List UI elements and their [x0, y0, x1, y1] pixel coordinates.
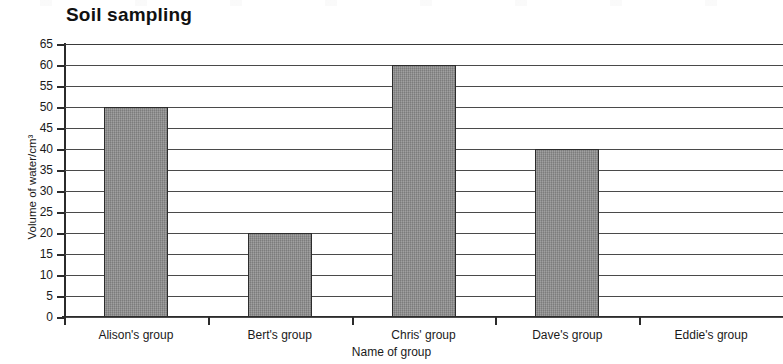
bar-chart: Soil sampling Volume of water/cm³ 051015…	[0, 0, 783, 364]
y-tick-mark	[57, 170, 65, 172]
y-tick-label: 50	[40, 100, 53, 114]
y-tick-label: 55	[40, 79, 53, 93]
y-tick-label: 15	[40, 247, 53, 261]
y-tick-label: 35	[40, 163, 53, 177]
y-tick-mark	[57, 275, 65, 277]
y-tick-label: 45	[40, 121, 53, 135]
y-tick-mark	[57, 44, 65, 46]
y-tick-mark	[57, 254, 65, 256]
x-tick-mark	[64, 316, 66, 325]
y-tick-label: 25	[40, 205, 53, 219]
y-tick-label: 20	[40, 226, 53, 240]
y-tick-mark	[57, 233, 65, 235]
y-tick-mark	[57, 107, 65, 109]
x-tick-label: Alison's group	[98, 328, 173, 342]
x-tick-label: Eddie's group	[675, 328, 748, 342]
y-tick-mark	[57, 212, 65, 214]
y-tick-label: 30	[40, 184, 53, 198]
y-tick-mark	[57, 191, 65, 193]
x-tick-mark	[495, 316, 497, 325]
bar	[392, 65, 456, 317]
x-tick-label: Bert's group	[248, 328, 312, 342]
y-tick-label: 65	[40, 37, 53, 51]
x-tick-label: Dave's group	[532, 328, 602, 342]
y-tick-mark	[57, 128, 65, 130]
y-tick-mark	[57, 296, 65, 298]
plot-area: 05101520253035404550556065	[64, 44, 783, 317]
y-tick-label: 0	[46, 310, 53, 324]
y-tick-label: 10	[40, 268, 53, 282]
y-tick-label: 40	[40, 142, 53, 156]
y-axis-title: Volume of water/cm³	[26, 87, 38, 287]
x-tick-mark	[352, 316, 354, 325]
x-axis-title: Name of group	[0, 345, 783, 359]
chart-title: Soil sampling	[66, 4, 192, 26]
y-tick-mark	[57, 65, 65, 67]
x-tick-label: Chris' group	[391, 328, 455, 342]
y-tick-label: 5	[46, 289, 53, 303]
y-tick-mark	[57, 86, 65, 88]
bar	[248, 233, 312, 317]
bar	[104, 107, 168, 317]
gridline	[64, 317, 783, 318]
y-tick-label: 60	[40, 58, 53, 72]
bar	[535, 149, 599, 317]
gridline	[64, 44, 783, 45]
x-tick-mark	[639, 316, 641, 325]
x-tick-mark	[208, 316, 210, 325]
y-tick-mark	[57, 149, 65, 151]
